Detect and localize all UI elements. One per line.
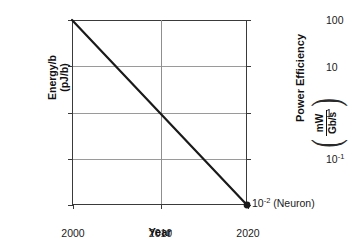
tick-bottom-2010 bbox=[161, 204, 162, 209]
tick-value: 10 bbox=[326, 153, 338, 165]
unit-denominator: Gb/s bbox=[326, 110, 339, 136]
unit-numerator: mW bbox=[314, 110, 326, 136]
tick-right-100 bbox=[246, 20, 251, 21]
tick-bottom-2000 bbox=[73, 204, 74, 209]
annotation-base: 10 bbox=[252, 197, 264, 209]
tick-value: 10 bbox=[326, 61, 338, 73]
tick-right-1 bbox=[246, 113, 251, 114]
axis-title-x: Year bbox=[0, 226, 320, 238]
tick-bottom-2020 bbox=[248, 204, 249, 209]
gridline-horizontal-0.1 bbox=[73, 159, 246, 160]
annotation-suffix: (Neuron) bbox=[270, 197, 314, 209]
plot-top-edge bbox=[73, 20, 246, 21]
left-parenthesis-glyph: ( bbox=[310, 140, 342, 148]
tick-right-0.1 bbox=[246, 159, 251, 160]
tick-value: 100 bbox=[326, 14, 344, 26]
tick-right-10 bbox=[246, 66, 251, 67]
chart-figure: 102 10 1 10-1 10-2 100 10 1 10-1 2000 bbox=[0, 0, 357, 249]
annotation-neuron: 10-2 (Neuron) bbox=[252, 198, 315, 209]
axis-title-x-text: Year bbox=[148, 226, 171, 238]
unit-fraction-body: mW Gb/s bbox=[314, 109, 339, 137]
axis-unit-fraction-wrapper: ( mW Gb/s ) bbox=[291, 97, 357, 149]
gridline-horizontal-1 bbox=[73, 113, 246, 114]
axis-tick-label-right-10: 10 bbox=[326, 62, 338, 73]
gridline-vertical-2010 bbox=[161, 20, 162, 204]
gridline-horizontal-10 bbox=[73, 66, 246, 67]
axis-title-y-left-line2: (pJ/b) bbox=[58, 32, 70, 124]
axis-unit-fraction: ( mW Gb/s ) bbox=[291, 97, 357, 149]
plot-area: 102 10 1 10-1 10-2 100 10 1 10-1 2000 bbox=[72, 20, 247, 205]
tick-left-0.1 bbox=[68, 159, 73, 160]
tick-exponent: -1 bbox=[338, 152, 345, 161]
tick-left-100 bbox=[68, 20, 73, 21]
axis-tick-label-right-0.1: 10-1 bbox=[326, 154, 344, 165]
axis-title-y-left: Energy/b (pJ/b) bbox=[47, 32, 70, 124]
axis-tick-label-right-100: 100 bbox=[326, 15, 344, 26]
axis-title-y-left-line1: Energy/b bbox=[47, 32, 59, 124]
right-parenthesis-glyph: ) bbox=[310, 98, 342, 106]
